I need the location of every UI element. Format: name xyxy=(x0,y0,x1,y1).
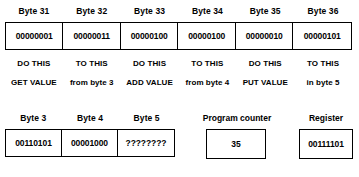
memory-byte-value: 00000100 xyxy=(121,23,178,49)
instruction-phrase: from byte 4 xyxy=(178,78,236,87)
memory-byte-caption: Byte 33 xyxy=(121,6,179,16)
memory-byte-caption: Byte 31 xyxy=(5,6,63,16)
memory-byte-caption: Byte 36 xyxy=(294,6,352,16)
memory-byte-table: 00000001 00000011 00000100 00000100 0000… xyxy=(5,22,352,50)
memory-byte-captions: Byte 31 Byte 32 Byte 33 Byte 34 Byte 35 … xyxy=(5,6,352,16)
program-counter-box: 35 xyxy=(206,129,266,159)
operation-label: TO THIS xyxy=(178,59,236,68)
memory-byte-caption: Byte 32 xyxy=(63,6,121,16)
data-byte-caption: Byte 3 xyxy=(5,113,62,123)
register-box: 00111101 xyxy=(299,129,353,159)
operation-label: DO THIS xyxy=(121,59,179,68)
memory-byte-value: 00000100 xyxy=(178,23,235,49)
memory-byte-caption: Byte 35 xyxy=(236,6,294,16)
instruction-phrase: from byte 3 xyxy=(63,78,121,87)
instruction-phrase: ADD VALUE xyxy=(121,78,179,87)
operation-label: DO THIS xyxy=(236,59,294,68)
data-byte-value: 00001000 xyxy=(62,130,118,156)
register-value: 00111101 xyxy=(308,139,344,149)
program-counter-value: 35 xyxy=(231,139,240,149)
operation-label: TO THIS xyxy=(63,59,121,68)
memory-byte-value: 00000101 xyxy=(293,23,350,49)
data-byte-value: ???????? xyxy=(118,130,174,156)
data-byte-caption: Byte 4 xyxy=(62,113,119,123)
memory-byte-value: 00000010 xyxy=(236,23,293,49)
data-byte-table: 00110101 00001000 ???????? xyxy=(5,129,175,157)
instruction-phrase: PUT VALUE xyxy=(236,78,294,87)
memory-byte-value: 00000011 xyxy=(63,23,120,49)
data-byte-captions: Byte 3 Byte 4 Byte 5 xyxy=(5,113,175,123)
instruction-phrase: GET VALUE xyxy=(5,78,63,87)
operation-label-row: DO THIS TO THIS DO THIS TO THIS DO THIS … xyxy=(5,59,352,68)
instruction-phrase: in byte 5 xyxy=(294,78,352,87)
program-counter-label: Program counter xyxy=(199,113,275,123)
memory-byte-caption: Byte 34 xyxy=(178,6,236,16)
register-label: Register xyxy=(299,113,353,123)
data-byte-value: 00110101 xyxy=(6,130,62,156)
operation-label: TO THIS xyxy=(294,59,352,68)
data-byte-caption: Byte 5 xyxy=(118,113,175,123)
instruction-phrase-row: GET VALUE from byte 3 ADD VALUE from byt… xyxy=(5,78,352,87)
memory-byte-value: 00000001 xyxy=(6,23,63,49)
operation-label: DO THIS xyxy=(5,59,63,68)
